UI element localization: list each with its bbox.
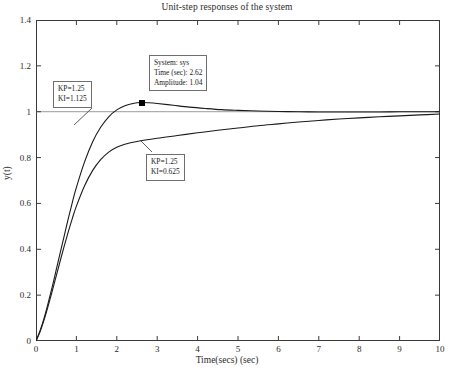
- y-tick-label: 0.4: [0, 244, 31, 254]
- series-line-1: [36, 114, 440, 341]
- x-tick-label: 10: [436, 344, 445, 354]
- y-tick-label: 0.2: [0, 290, 31, 300]
- y-tick-label: 0.8: [0, 153, 31, 163]
- y-axis-label: y(t): [2, 166, 12, 180]
- annotation-slow-gains[interactable]: KP=1.25 KI=0.625: [146, 154, 185, 181]
- datatip-marker[interactable]: [139, 100, 145, 106]
- x-tick-label: 8: [357, 344, 362, 354]
- datatip-time: Time (sec): 2.62: [154, 68, 202, 78]
- y-tick-label: 0.6: [0, 198, 31, 208]
- x-tick-label: 9: [397, 344, 402, 354]
- annotation-fast-ki: KI=1.125: [58, 94, 87, 104]
- y-tick-label: 1.4: [0, 15, 31, 25]
- x-axis-label: Time(secs) (sec): [0, 355, 454, 365]
- x-tick-label: 5: [236, 344, 241, 354]
- x-tick-label: 0: [34, 344, 39, 354]
- datatip-system: System: sys: [154, 58, 202, 68]
- x-tick-label: 6: [276, 344, 281, 354]
- y-tick-label: 1.2: [0, 61, 31, 71]
- datatip-amplitude: Amplitude: 1.04: [154, 78, 202, 88]
- x-tick-label: 4: [195, 344, 200, 354]
- x-tick-label: 3: [155, 344, 160, 354]
- datatip-box[interactable]: System: sys Time (sec): 2.62 Amplitude: …: [149, 55, 207, 91]
- annotation-fast-kp: KP=1.25: [58, 84, 87, 94]
- plot-svg: [36, 20, 440, 341]
- plot-title: Unit-step responses of the system: [0, 2, 454, 12]
- figure-canvas: Unit-step responses of the system y(t) T…: [0, 0, 454, 372]
- series-line-0: [36, 103, 440, 341]
- plot-axes: [36, 20, 440, 341]
- x-tick-label: 7: [317, 344, 322, 354]
- annotation-fast-gains[interactable]: KP=1.25 KI=1.125: [53, 81, 92, 108]
- annotation-slow-kp: KP=1.25: [151, 157, 180, 167]
- y-tick-label: 0: [0, 336, 31, 346]
- x-tick-label: 1: [74, 344, 79, 354]
- annotation-leader-1: [140, 140, 152, 152]
- annotation-leader-0: [74, 108, 92, 125]
- annotation-slow-ki: KI=0.625: [151, 167, 180, 177]
- x-tick-label: 2: [115, 344, 120, 354]
- y-tick-label: 1: [0, 107, 31, 117]
